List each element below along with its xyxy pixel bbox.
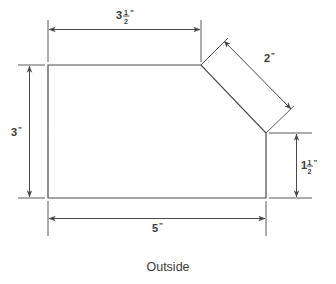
bottom-dim-value: 5 [152,222,158,234]
left-dim-label: 3 " [11,125,22,139]
right-dim-denominator: 2 [308,168,312,175]
diagonal-dim-value: 2 [264,52,270,64]
diagonal-dim-inch-mark: " [271,51,275,60]
diagonal-dim-extension-upper [201,38,228,65]
top-dim-inch-mark: " [130,8,134,17]
bottom-dim-inch-mark: " [159,221,163,230]
diagonal-dim-label: 2 " [264,51,275,65]
left-dim-inch-mark: " [18,125,22,134]
top-dim-numerator: 1 [124,9,128,16]
right-dim-whole: 1 [301,159,307,171]
diagonal-dim-extension-lower [266,106,294,133]
shape-outline [48,65,266,198]
figure-caption: Outside [146,260,189,274]
top-dim-denominator: 2 [124,18,128,25]
top-dim-whole: 3 [116,9,122,21]
technical-drawing-canvas: 3 1 2 " 2 " 3 " 1 1 2 [0,0,336,284]
top-dim-label: 3 1 2 " [116,8,134,25]
dimension-diagram-svg: 3 1 2 " 2 " 3 " 1 1 2 [0,0,336,284]
right-dim-inch-mark: " [314,158,318,167]
bottom-dim-label: 5 " [152,221,163,235]
right-dim-numerator: 1 [308,159,312,166]
left-dim-value: 3 [11,126,17,138]
right-dim-label: 1 1 2 " [301,158,318,175]
